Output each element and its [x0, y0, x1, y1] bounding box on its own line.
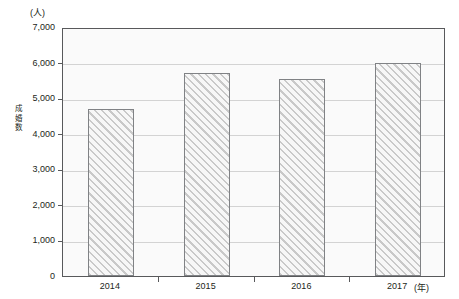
y-axis-tick — [58, 63, 63, 64]
bar-2017 — [375, 63, 421, 276]
y-axis-title-char-2: 婚 — [12, 114, 25, 124]
y-axis-tick-label: 5,000 — [0, 93, 55, 103]
x-axis-unit-label: (年) — [414, 281, 429, 294]
y-axis-unit-label: (人) — [30, 6, 45, 19]
x-axis-tick-label: 2014 — [80, 281, 140, 291]
y-axis-tick — [58, 134, 63, 135]
bar-2014 — [88, 109, 134, 276]
y-axis-tick-label: 3,000 — [0, 164, 55, 174]
y-axis-title-char-1: 成 — [12, 104, 25, 114]
y-axis-tick-label: 4,000 — [0, 129, 55, 139]
y-axis-tick-label: 6,000 — [0, 58, 55, 68]
y-axis-tick — [58, 170, 63, 171]
y-axis-tick-label: 7,000 — [0, 22, 55, 32]
x-axis-tick — [349, 277, 350, 282]
y-axis-tick-label: 2,000 — [0, 200, 55, 210]
y-axis-tick — [58, 205, 63, 206]
y-axis-tick — [58, 99, 63, 100]
bar-2015 — [184, 73, 230, 276]
y-axis-tick-label: 0 — [0, 271, 55, 281]
x-axis-tick-label: 2015 — [176, 281, 236, 291]
x-axis-tick — [254, 277, 255, 282]
y-axis-tick-label: 1,000 — [0, 235, 55, 245]
y-axis-tick — [58, 241, 63, 242]
bar-2016 — [279, 79, 325, 276]
bar-chart: (人) 成 婚 数 01,0002,0003,0004,0005,0006,00… — [0, 0, 459, 299]
x-axis-tick-label: 2016 — [271, 281, 331, 291]
x-axis-tick — [158, 277, 159, 282]
plot-area — [62, 28, 445, 277]
